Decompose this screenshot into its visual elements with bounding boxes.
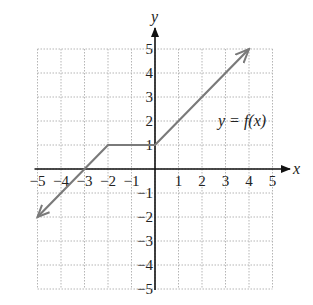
function-graph: −5−4−3−2−11234554321−1−2−3−4−5 y = f(x) … xyxy=(0,0,313,305)
svg-text:−5: −5 xyxy=(30,173,46,189)
svg-text:5: 5 xyxy=(269,173,277,189)
svg-text:3: 3 xyxy=(222,173,230,189)
svg-text:−3: −3 xyxy=(137,233,153,249)
svg-text:−4: −4 xyxy=(137,257,153,273)
axes xyxy=(35,28,291,290)
function-label: y = f(x) xyxy=(216,112,266,130)
svg-text:−2: −2 xyxy=(137,209,153,225)
svg-text:1: 1 xyxy=(175,173,183,189)
x-axis-label: x xyxy=(292,160,300,177)
svg-text:2: 2 xyxy=(198,173,206,189)
svg-text:5: 5 xyxy=(146,41,154,57)
svg-text:2: 2 xyxy=(146,113,154,129)
svg-text:3: 3 xyxy=(146,89,154,105)
svg-text:−5: −5 xyxy=(137,281,153,297)
y-axis-label: y xyxy=(149,8,159,26)
svg-text:−2: −2 xyxy=(100,173,116,189)
svg-text:4: 4 xyxy=(245,173,253,189)
svg-text:−1: −1 xyxy=(137,185,153,201)
svg-text:4: 4 xyxy=(146,65,154,81)
